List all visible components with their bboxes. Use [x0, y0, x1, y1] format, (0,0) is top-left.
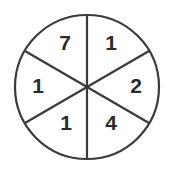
sector-label-left: 1 — [32, 74, 44, 97]
spinner-wheel-svg: 7 1 2 4 1 1 — [0, 0, 174, 173]
sector-label-top-left: 7 — [59, 31, 71, 54]
sector-label-right: 2 — [130, 74, 142, 97]
sector-label-bottom-left: 1 — [60, 111, 72, 134]
sector-label-top-right: 1 — [105, 31, 117, 54]
spinner-wheel-figure: 7 1 2 4 1 1 — [0, 0, 174, 173]
sector-label-bottom-right: 4 — [105, 111, 117, 134]
